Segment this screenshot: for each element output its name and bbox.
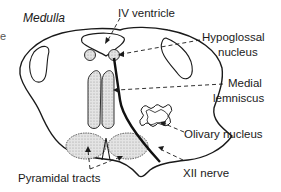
diagram-title: Medulla <box>23 12 65 24</box>
medial-lemniscus-left <box>88 71 101 129</box>
medial-lemniscus-right <box>102 71 114 129</box>
label-xii-nerve: XII nerve <box>183 167 229 179</box>
pyramidal-tract-right <box>108 133 148 159</box>
label-pyramidal-tracts: Pyramidal tracts <box>18 172 100 184</box>
label-hypoglossal-line2: nucleus <box>218 46 258 58</box>
label-hypoglossal-line1: Hypoglossal <box>202 31 265 43</box>
olivary-nucleus-shape <box>140 105 172 127</box>
left-lateral-structure <box>30 46 49 82</box>
label-iv-ventricle: IV ventricle <box>118 7 175 19</box>
pyramidal-tract-left <box>66 133 106 159</box>
edge-text-fragment: e <box>0 30 6 42</box>
label-medial-line2: lemniscus <box>213 92 264 104</box>
leader-olivary <box>165 124 184 132</box>
leader-medial-lemniscus <box>117 84 223 90</box>
leader-xii-nerve <box>162 150 183 160</box>
label-medial-line1: Medial <box>228 77 262 89</box>
hypoglossal-nucleus-left <box>85 50 96 61</box>
label-olivary-nucleus: Olivary nucleus <box>184 128 263 140</box>
medulla-cross-section-diagram: e Medulla IV ventricle Hypoglossal nucle… <box>0 0 281 192</box>
